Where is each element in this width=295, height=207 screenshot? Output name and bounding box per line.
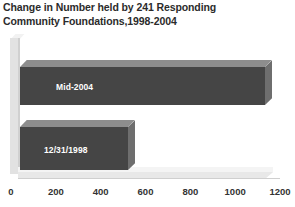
bar-12-31-1998-side-face <box>128 120 135 170</box>
bar-chart: Change in Number held by 241 Responding … <box>0 0 295 207</box>
plot-area: Mid-2004 12/31/1998 <box>0 34 295 184</box>
bar-mid-2004-label: Mid-2004 <box>56 82 93 92</box>
x-tick-label-1000: 1000 <box>225 186 246 197</box>
bar-12-31-1998-top-face <box>20 120 134 127</box>
x-tick-label-800: 800 <box>182 186 198 197</box>
x-axis-tick-labels: 020040060080010001200 <box>0 186 295 202</box>
chart-title-line-2: Community Foundations,1998-2004 <box>3 15 291 29</box>
x-axis-line <box>18 178 280 179</box>
bar-mid-2004-top-face <box>20 60 272 67</box>
x-tick-label-600: 600 <box>138 186 154 197</box>
bar-12-31-1998-label: 12/31/1998 <box>44 145 88 155</box>
chart-title: Change in Number held by 241 Responding … <box>3 1 291 28</box>
chart-title-line-1: Change in Number held by 241 Responding <box>3 1 291 15</box>
x-tick-label-200: 200 <box>48 186 64 197</box>
x-tick-label-1200: 1200 <box>269 186 290 197</box>
x-tick-label-0: 0 <box>8 186 13 197</box>
x-tick-label-400: 400 <box>93 186 109 197</box>
bar-mid-2004-side-face <box>265 60 272 105</box>
